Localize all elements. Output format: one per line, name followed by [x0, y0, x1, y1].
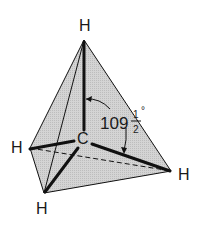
atom-label-left-h: H — [11, 139, 23, 156]
angle-numerator: 1 — [133, 109, 139, 120]
tetrahedron-diagram: H C H H H 109 1 2 ° — [0, 0, 203, 235]
angle-denominator: 2 — [133, 124, 139, 135]
atom-label-top-h: H — [79, 17, 91, 34]
angle-whole: 109 — [100, 114, 128, 133]
atom-label-right-h: H — [178, 166, 190, 183]
atom-label-c: C — [77, 130, 89, 147]
degree-symbol: ° — [141, 105, 145, 116]
atom-label-bottom-h: H — [36, 200, 48, 217]
